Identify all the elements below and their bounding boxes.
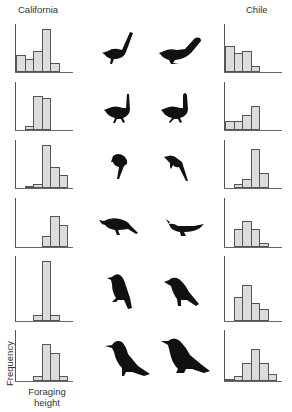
x-axis bbox=[224, 72, 282, 73]
histogram-bar bbox=[59, 376, 69, 381]
histogram-bar bbox=[251, 66, 261, 72]
histogram-chile-row-6 bbox=[224, 330, 282, 382]
histogram-bar bbox=[259, 309, 269, 321]
y-axis bbox=[15, 198, 16, 248]
histogram-bar bbox=[268, 374, 278, 381]
histogram-chile-row-1 bbox=[224, 24, 282, 73]
x-axis bbox=[15, 188, 73, 189]
x-axis bbox=[224, 247, 282, 248]
bird-icon-ca-thrasher bbox=[104, 336, 154, 380]
header-california: California bbox=[18, 4, 58, 15]
histogram-bar bbox=[59, 175, 69, 188]
x-axis bbox=[15, 381, 73, 382]
histogram-chile-row-3 bbox=[224, 140, 282, 189]
x-axis bbox=[15, 72, 73, 73]
histogram-chile-row-5 bbox=[224, 256, 282, 322]
x-axis bbox=[15, 130, 73, 131]
bird-icon-ca-towhee bbox=[98, 216, 140, 238]
bird-icon-cl-finch bbox=[164, 216, 206, 238]
y-axis bbox=[15, 140, 16, 189]
histogram-california-row-3 bbox=[15, 140, 73, 189]
histogram-bar bbox=[42, 98, 52, 130]
histogram-bar bbox=[59, 225, 69, 247]
y-axis bbox=[224, 256, 225, 322]
y-axis bbox=[15, 82, 16, 131]
bird-icon-ca-thrasher-wren bbox=[100, 28, 138, 68]
header-chile: Chile bbox=[246, 4, 268, 15]
histogram-bar bbox=[251, 106, 261, 130]
bird-icon-cl-thrasher bbox=[160, 335, 212, 379]
bird-icon-cl-wren bbox=[160, 90, 194, 126]
bird-icon-cl-flycatcher bbox=[163, 274, 201, 312]
bird-icon-ca-flycatcher bbox=[106, 272, 136, 314]
y-axis bbox=[224, 330, 225, 382]
histogram-california-row-1 bbox=[15, 24, 73, 73]
bird-icon-cl-tapaculo bbox=[157, 33, 203, 69]
y-axis bbox=[15, 256, 16, 322]
bird-icon-ca-wren bbox=[103, 92, 137, 126]
histogram-bar bbox=[42, 261, 52, 321]
histogram-california-row-5 bbox=[15, 256, 73, 322]
histogram-bar bbox=[50, 63, 60, 72]
x-axis-label-line2: height bbox=[22, 397, 72, 408]
y-axis bbox=[224, 198, 225, 248]
histogram-california-row-2 bbox=[15, 82, 73, 131]
histogram-bar bbox=[259, 243, 269, 247]
histogram-chile-row-4 bbox=[224, 198, 282, 248]
x-axis bbox=[224, 321, 282, 322]
histogram-bar bbox=[259, 173, 269, 188]
histogram-california-row-4 bbox=[15, 198, 73, 248]
x-axis bbox=[224, 381, 282, 382]
x-axis bbox=[224, 130, 282, 131]
histogram-california-row-6 bbox=[15, 330, 73, 382]
x-axis bbox=[224, 188, 282, 189]
bird-icon-cl-tit-tyrant bbox=[163, 153, 191, 185]
histogram-bar bbox=[50, 315, 60, 321]
y-axis bbox=[224, 140, 225, 189]
y-axis-label: Frequency bbox=[4, 341, 15, 386]
y-axis bbox=[15, 330, 16, 382]
bird-icon-ca-titmouse bbox=[110, 152, 132, 184]
x-axis bbox=[15, 247, 73, 248]
histogram-chile-row-2 bbox=[224, 82, 282, 131]
x-axis bbox=[15, 321, 73, 322]
x-axis-label-line1: Foraging bbox=[22, 386, 72, 397]
